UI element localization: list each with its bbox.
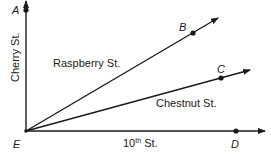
point-b-dot	[190, 30, 195, 35]
tenth-st-num: 10	[123, 137, 135, 149]
tenth-st-label: 10th St.	[123, 137, 158, 149]
point-a-label: A	[11, 4, 19, 16]
point-b-label: B	[179, 21, 186, 33]
point-d-label: D	[231, 138, 239, 150]
raspberry-st-label: Raspberry St.	[53, 57, 120, 69]
raspberry-st-ray	[26, 18, 218, 131]
tenth-st-rest: St.	[141, 137, 158, 149]
chestnut-st-label: Chestnut St.	[156, 97, 217, 109]
point-a-dot	[23, 7, 28, 12]
street-diagram: A B C D E Cherry St. Raspberry St. Chest…	[0, 0, 271, 156]
point-e-label: E	[13, 138, 21, 150]
point-e-dot	[24, 129, 28, 133]
point-d-dot	[233, 128, 238, 133]
point-c-dot	[218, 75, 223, 80]
cherry-st-label: Cherry St.	[9, 32, 21, 82]
point-c-label: C	[217, 63, 225, 75]
